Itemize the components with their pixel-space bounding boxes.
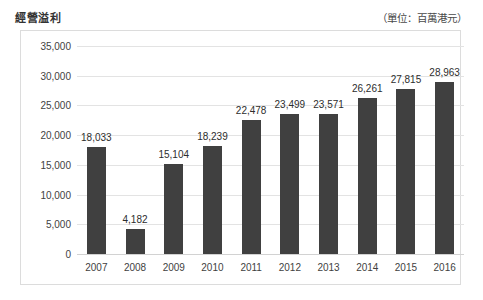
x-axis-tick-label: 2016 xyxy=(434,262,456,273)
bar-2016[interactable] xyxy=(435,82,454,254)
x-axis-tick-label: 2009 xyxy=(163,262,185,273)
bar-2009[interactable] xyxy=(164,164,183,254)
bar-2013[interactable] xyxy=(319,114,338,254)
x-axis-tick-label: 2013 xyxy=(317,262,339,273)
y-axis-tick-label: 15,000 xyxy=(21,159,71,170)
chart-page: 經營溢利 （單位：百萬港元） 05,00010,00015,00020,0002… xyxy=(0,0,483,300)
bar-value-label: 18,033 xyxy=(81,132,112,143)
chart-title: 經營溢利 xyxy=(15,9,61,25)
x-axis-tick-label: 2014 xyxy=(356,262,378,273)
y-axis-tick-label: 25,000 xyxy=(21,100,71,111)
bar-value-label: 18,239 xyxy=(197,131,228,142)
y-axis-tick-label: 30,000 xyxy=(21,70,71,81)
x-axis-tick-label: 2010 xyxy=(201,262,223,273)
bar-2015[interactable] xyxy=(396,89,415,254)
bar-value-label: 23,571 xyxy=(313,99,344,110)
gridline xyxy=(77,46,464,47)
x-axis-tick-label: 2015 xyxy=(395,262,417,273)
bar-value-label: 22,478 xyxy=(236,105,267,116)
y-axis-tick-label: 10,000 xyxy=(21,189,71,200)
bar-value-label: 27,815 xyxy=(391,74,422,85)
x-axis-tick-label: 2011 xyxy=(240,262,262,273)
chart-header: 經營溢利 （單位：百萬港元） xyxy=(0,9,483,27)
y-axis-tick-label: 35,000 xyxy=(21,41,71,52)
chart-frame: 05,00010,00015,00020,00025,00030,00035,0… xyxy=(20,30,461,285)
y-axis-tick-label: 20,000 xyxy=(21,130,71,141)
x-axis-tick-label: 2007 xyxy=(85,262,107,273)
y-axis-tick-label: 0 xyxy=(21,249,71,260)
bar-2014[interactable] xyxy=(358,98,377,254)
bar-2007[interactable] xyxy=(87,147,106,254)
chart-unit-note: （單位：百萬港元） xyxy=(377,10,467,25)
bar-value-label: 15,104 xyxy=(158,149,189,160)
bar-value-label: 26,261 xyxy=(352,83,383,94)
bar-value-label: 23,499 xyxy=(275,99,306,110)
bar-2011[interactable] xyxy=(242,120,261,254)
y-axis-tick-label: 5,000 xyxy=(21,219,71,230)
bar-2010[interactable] xyxy=(203,146,222,254)
bar-2008[interactable] xyxy=(126,229,145,254)
bar-2012[interactable] xyxy=(280,114,299,254)
bar-value-label: 4,182 xyxy=(123,214,148,225)
bar-value-label: 28,963 xyxy=(429,67,460,78)
x-axis-tick-label: 2008 xyxy=(124,262,146,273)
chart-plot-area: 05,00010,00015,00020,00025,00030,00035,0… xyxy=(21,31,460,284)
gridline xyxy=(77,254,464,255)
x-axis-tick-label: 2012 xyxy=(279,262,301,273)
